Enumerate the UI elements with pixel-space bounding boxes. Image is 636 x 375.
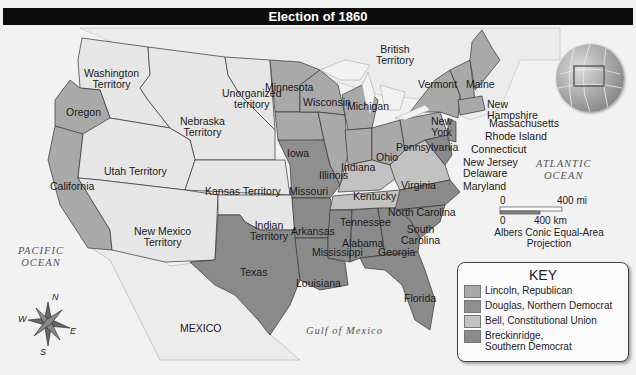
- election-map: Election of 1860: [0, 0, 636, 375]
- label-vermont: Vermont: [418, 79, 457, 90]
- globe-locator-icon: [556, 44, 624, 112]
- key-swatch: [464, 315, 481, 328]
- label-south-carolina: South Carolina: [401, 224, 440, 246]
- label-tennessee: Tennessee: [340, 217, 391, 228]
- label-michigan: Michigan: [347, 101, 389, 112]
- label-indian-territory: Indian Territory: [250, 220, 288, 242]
- label-utah-territory: Utah Territory: [104, 166, 167, 177]
- scale-zero-bottom: 0: [500, 215, 506, 226]
- label-california: California: [50, 181, 94, 192]
- compass-e: E: [70, 326, 77, 336]
- label-delaware: Delaware: [463, 168, 507, 179]
- label-washington-territory: Washington Territory: [84, 68, 139, 90]
- label-missouri: Missouri: [289, 186, 328, 197]
- label-north-carolina: North Carolina: [388, 207, 456, 218]
- label-rhode-island: Rhode Island: [485, 131, 547, 142]
- label-new-york: New York: [431, 116, 452, 138]
- key-item-breckinridge: Breckinridge, Southern Democrat: [464, 330, 628, 352]
- key-item-douglas: Douglas, Northern Democrat: [464, 300, 628, 313]
- label-wisconsin: Wisconsin: [303, 97, 351, 108]
- label-minnesota: Minnesota: [265, 82, 313, 93]
- label-gulf-of-mexico: Gulf of Mexico: [306, 325, 383, 337]
- compass-n: N: [52, 292, 59, 302]
- compass-w: W: [18, 314, 28, 324]
- label-british-territory: British Territory: [376, 44, 414, 66]
- scale-zero-top: 0: [500, 195, 506, 206]
- label-florida: Florida: [404, 293, 436, 304]
- scale-km: 400 km: [534, 215, 567, 226]
- label-arkansas: Arkansas: [291, 226, 335, 237]
- key-item-lincoln: Lincoln, Republican: [464, 285, 628, 298]
- map-key-legend: KEY Lincoln, Republican Douglas, Norther…: [457, 262, 629, 362]
- label-mexico: MEXICO: [180, 323, 221, 334]
- label-pennsylvania: Pennsylvania: [396, 142, 458, 153]
- scale-miles: 400 mi: [557, 195, 587, 206]
- label-pacific-ocean: PACIFIC OCEAN: [18, 245, 64, 269]
- label-massachusetts: Massachusetts: [489, 118, 559, 129]
- compass-rose-icon: N W E S: [18, 292, 78, 360]
- label-georgia: Georgia: [378, 247, 415, 258]
- key-swatch: [464, 330, 481, 343]
- label-new-mexico-territory: New Mexico Territory: [134, 226, 191, 248]
- label-kansas-territory: Kansas Territory: [205, 186, 281, 197]
- label-indiana: Indiana: [341, 162, 375, 173]
- label-iowa: Iowa: [287, 148, 309, 159]
- key-swatch: [464, 300, 481, 313]
- label-ohio: Ohio: [376, 152, 398, 163]
- key-title: KEY: [458, 267, 628, 283]
- label-oregon: Oregon: [66, 107, 101, 118]
- map-title: Election of 1860: [3, 8, 633, 25]
- label-atlantic-ocean: ATLANTIC OCEAN: [536, 158, 591, 182]
- label-connecticut: Connecticut: [471, 144, 526, 155]
- key-swatch: [464, 285, 481, 298]
- compass-s: S: [40, 347, 46, 356]
- key-item-bell: Bell, Constitutional Union: [464, 315, 628, 328]
- label-maine: Maine: [466, 79, 495, 90]
- label-texas: Texas: [240, 267, 267, 278]
- label-kentucky: Kentucky: [353, 191, 396, 202]
- label-louisiana: Louisiana: [296, 278, 341, 289]
- projection-label: Albers Conic Equal-Area Projection: [491, 227, 607, 249]
- label-maryland: Maryland: [463, 181, 506, 192]
- label-nebraska-territory: Nebraska Territory: [180, 116, 225, 138]
- label-virginia: Virginia: [401, 180, 436, 191]
